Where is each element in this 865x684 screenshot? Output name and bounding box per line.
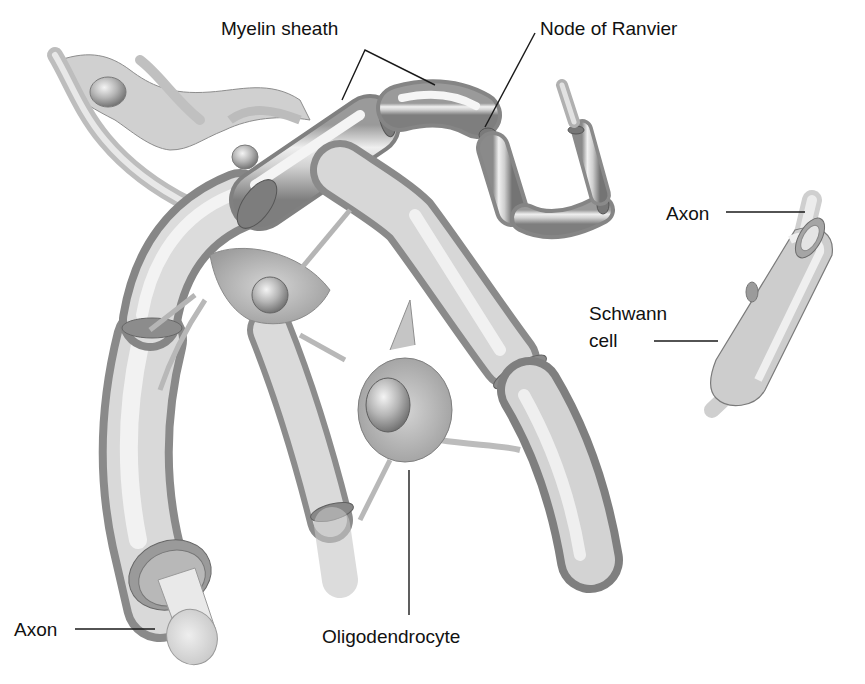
label-axon-left: Axon xyxy=(14,619,57,640)
nucleus-main xyxy=(366,378,410,432)
label-axon-right: Axon xyxy=(666,203,709,224)
myelinated-axon-arch xyxy=(119,85,609,672)
leader-node-of-ranvier xyxy=(485,33,535,127)
label-myelin-sheath: Myelin sheath xyxy=(221,18,338,39)
label-schwann-cell-line2: cell xyxy=(589,330,618,351)
schwann-nucleus xyxy=(746,282,758,302)
schwann-cell-illustration xyxy=(711,200,833,410)
myelination-diagram: Myelin sheath Node of Ranvier Axon Schwa… xyxy=(0,0,865,684)
label-node-of-ranvier: Node of Ranvier xyxy=(540,18,678,39)
nucleus-upper xyxy=(252,277,288,313)
label-schwann-cell-line1: Schwann xyxy=(589,303,667,324)
label-oligodendrocyte: Oligodendrocyte xyxy=(322,626,460,647)
